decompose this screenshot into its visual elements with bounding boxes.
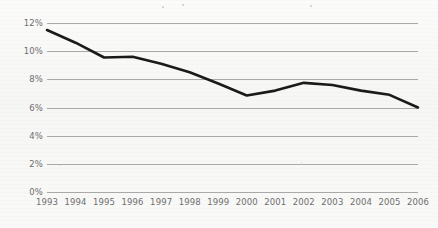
x-axis-tick-label: 2002 (293, 198, 315, 207)
y-axis-tick-label: 0% (0, 188, 43, 197)
scan-speck (182, 4, 184, 6)
series-polyline (47, 30, 418, 107)
y-axis-tick-label: 6% (0, 104, 43, 113)
x-axis-tick-label: 2001 (264, 198, 286, 207)
x-axis-tick-label: 1996 (122, 198, 144, 207)
x-axis-tick-label: 1998 (179, 198, 201, 207)
x-axis-tick-label: 1995 (93, 198, 115, 207)
y-axis: 0%2%4%6%8%10%12% (0, 23, 43, 192)
x-axis-tick-label: 1999 (207, 198, 229, 207)
x-axis-tick-label: 1993 (36, 198, 58, 207)
plot-area (47, 23, 418, 192)
scan-speck (162, 6, 164, 8)
scan-speck (310, 5, 312, 7)
x-axis: 1993199419951996199719981999200020012002… (47, 198, 418, 212)
x-axis-tick-label: 1994 (65, 198, 87, 207)
y-axis-tick-label: 12% (0, 19, 43, 28)
x-axis-tick-label: 1997 (150, 198, 172, 207)
gridline (47, 192, 418, 193)
y-axis-tick-label: 4% (0, 132, 43, 141)
x-axis-tick-label: 2005 (378, 198, 400, 207)
y-axis-tick-label: 2% (0, 160, 43, 169)
x-axis-tick-label: 2000 (236, 198, 258, 207)
x-axis-tick-label: 2006 (407, 198, 429, 207)
x-axis-tick-label: 2004 (350, 198, 372, 207)
data-series-line (47, 23, 418, 192)
y-axis-tick-label: 10% (0, 47, 43, 56)
line-chart: 0%2%4%6%8%10%12% 19931994199519961997199… (0, 0, 438, 228)
y-axis-tick-label: 8% (0, 75, 43, 84)
x-axis-tick-label: 2003 (321, 198, 343, 207)
